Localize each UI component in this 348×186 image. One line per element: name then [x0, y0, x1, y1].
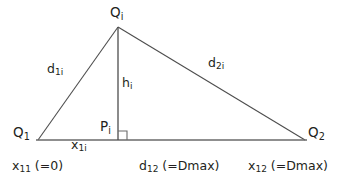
label-segment-hi: hi: [122, 77, 132, 90]
label-foot-pi: Pi: [100, 120, 111, 134]
label-vertex-q2: Q2: [308, 126, 325, 140]
segment-d2i-line: [118, 27, 305, 140]
label-segment-d2i: d2i: [208, 57, 224, 70]
right-angle-marker: [118, 131, 127, 140]
label-apex-qi: Qi: [110, 6, 123, 20]
label-segment-x1i: x1i: [71, 139, 87, 152]
axis-annotation-left: x11 (=0): [12, 160, 63, 173]
axis-annotation-right: x12 (=Dmax): [248, 160, 328, 173]
geometry-figure: Qi Q1 Q2 Pi d1i d2i hi x1i x11 (=0) d12 …: [0, 0, 348, 186]
axis-annotation-center: d12 (=Dmax): [139, 160, 219, 173]
label-segment-d1i: d1i: [47, 63, 63, 76]
label-vertex-q1: Q1: [13, 126, 30, 140]
